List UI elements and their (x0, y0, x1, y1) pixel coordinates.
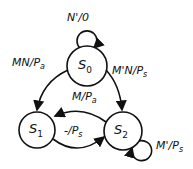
state-s2-label: S2 (114, 123, 128, 140)
state-s1-label: S1 (29, 122, 43, 139)
edge-s2-s1 (55, 111, 106, 122)
state-s0-label: S0 (78, 58, 92, 75)
label-s0-s1: MN/Pa (12, 57, 45, 71)
label-s0-s2: M'N/Ps (112, 65, 147, 79)
label-s1-s2: -/Ps (64, 125, 83, 139)
label-s2-self: M'/Ps (156, 140, 183, 154)
label-s0-self: N'/0 (67, 12, 89, 23)
label-s2-s1: M/Pa (72, 91, 97, 105)
edge-s0-s1 (37, 70, 68, 110)
